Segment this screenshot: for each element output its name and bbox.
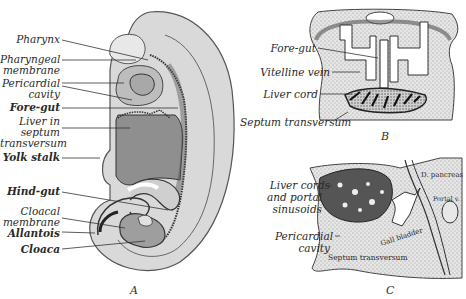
panel-letter-c: C	[386, 284, 394, 297]
label-c-cavity: cavity	[240, 243, 330, 254]
label-b-septum-transversum: Septum transversum	[240, 117, 334, 128]
panel-a-drawing	[90, 12, 234, 271]
label-allantois: Allantois	[0, 228, 60, 239]
panel-letter-a: A	[130, 284, 138, 297]
label-vitelline-vein: Vitelline vein	[240, 67, 330, 78]
panel-letter-b: B	[381, 130, 389, 143]
label-sinusoids: sinusoids	[240, 204, 322, 215]
label-b-fore-gut: Fore-gut	[240, 43, 316, 54]
label-fore-gut: Fore-gut	[0, 102, 60, 113]
label-d-pancreas: D. pancreas	[421, 170, 463, 181]
label-transversum: transversum	[0, 138, 60, 149]
label-pericardial-cavity: cavity	[0, 89, 60, 100]
label-portal-v: Portal v.	[433, 194, 460, 205]
label-liver-cords: Liver cords	[240, 180, 330, 191]
label-pharyngeal-membrane: membrane	[0, 65, 60, 76]
label-pharynx: Pharynx	[0, 34, 60, 45]
panel-b-drawing	[310, 9, 458, 120]
label-hind-gut: Hind-gut	[0, 186, 60, 197]
label-c-septum-transversum: Septum transversum	[328, 252, 408, 263]
label-liver-cord: Liver cord	[240, 89, 318, 100]
label-and-portal: and portal	[240, 192, 322, 203]
label-c-pericardial: Pericardial	[240, 231, 333, 242]
label-yolk-stalk: Yolk stalk	[0, 152, 60, 163]
label-cloaca: Cloaca	[0, 244, 60, 255]
